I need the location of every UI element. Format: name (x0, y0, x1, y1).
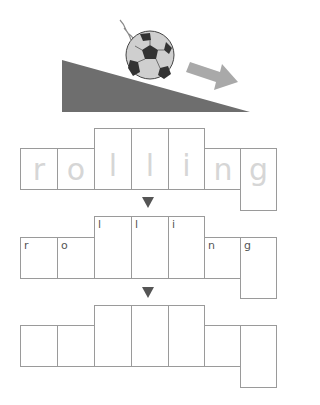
guide-letter: l (98, 218, 101, 231)
letter-box-o[interactable]: o (57, 237, 95, 279)
letter-box-blank[interactable] (131, 305, 169, 367)
letter-box-blank[interactable] (240, 325, 277, 388)
guide-letter: n (208, 239, 215, 252)
letter-box-l[interactable]: l (94, 128, 132, 190)
guide-letter: g (244, 239, 251, 252)
guide-letter: r (24, 239, 29, 252)
direction-arrow-icon (186, 62, 238, 90)
trace-letter: l (95, 151, 131, 181)
letter-box-r[interactable]: r (20, 237, 58, 279)
trace-letter: r (21, 155, 57, 185)
letter-box-i[interactable]: i (168, 216, 205, 279)
letter-box-n[interactable]: n (204, 148, 242, 190)
letter-box-blank[interactable] (168, 305, 205, 367)
letter-box-g[interactable]: g (240, 237, 277, 299)
down-arrow-icon (142, 287, 154, 298)
trace-letter: g (241, 155, 276, 185)
letter-box-blank[interactable] (57, 325, 95, 367)
trace-letter: o (58, 155, 94, 185)
trace-letter: i (169, 151, 204, 181)
soccer-ball-icon (126, 31, 174, 79)
letter-box-l[interactable]: l (131, 128, 169, 190)
letter-box-blank[interactable] (204, 325, 242, 367)
letter-box-l[interactable]: l (94, 216, 132, 279)
down-arrow-icon (142, 197, 154, 208)
letter-box-l[interactable]: l (131, 216, 169, 279)
guide-letter: l (135, 218, 138, 231)
letter-box-i[interactable]: i (168, 128, 205, 190)
guide-letter: i (172, 218, 175, 231)
letter-box-g[interactable]: g (240, 148, 277, 211)
guide-letter: o (61, 239, 68, 252)
illustration (50, 0, 290, 120)
trace-letter: l (132, 151, 168, 181)
letter-box-blank[interactable] (20, 325, 58, 367)
letter-box-r[interactable]: r (20, 148, 58, 190)
letter-box-n[interactable]: n (204, 237, 242, 279)
letter-box-blank[interactable] (94, 305, 132, 367)
letter-box-o[interactable]: o (57, 148, 95, 190)
trace-letter: n (205, 155, 241, 185)
